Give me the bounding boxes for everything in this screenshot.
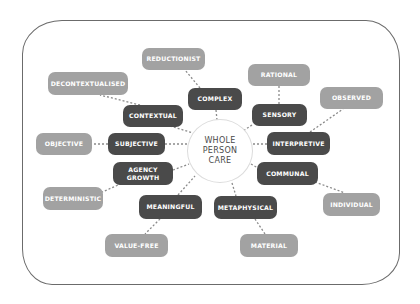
node-individual: INDIVIDUAL <box>323 193 380 216</box>
whole-person-care-hub: WHOLE PERSON CARE <box>187 119 253 183</box>
node-agency-growth: AGENCY GROWTH <box>113 162 173 185</box>
node-deterministic: DETERMINISTIC <box>43 187 103 210</box>
node-material: MATERIAL <box>240 234 298 257</box>
growth-line: GROWTH <box>127 174 160 182</box>
node-complex: COMPLEX <box>188 88 242 110</box>
node-interpretive: INTERPRETIVE <box>267 132 330 155</box>
node-reductionist: REDUCTIONIST <box>142 48 205 70</box>
node-meaningful: MEANINGFUL <box>139 195 202 219</box>
node-metaphysical: METAPHYSICAL <box>214 196 277 219</box>
node-observed: OBSERVED <box>320 87 383 109</box>
node-value-free: VALUE-FREE <box>105 234 168 257</box>
node-communal: COMMUNAL <box>257 162 318 185</box>
node-objective: OBJECTIVE <box>36 133 92 155</box>
center-line-2: PERSON <box>203 146 238 156</box>
node-decontextualised: DECONTEXTUALISED <box>48 72 128 95</box>
center-line-3: CARE <box>209 156 232 166</box>
center-line-1: WHOLE <box>204 136 235 146</box>
node-contextual: CONTEXTUAL <box>123 105 183 127</box>
node-sensory: SENSORY <box>252 104 307 126</box>
node-subjective: SUBJECTIVE <box>108 133 165 155</box>
agency-line: AGENCY <box>128 166 158 174</box>
node-rational: RATIONAL <box>248 64 310 86</box>
